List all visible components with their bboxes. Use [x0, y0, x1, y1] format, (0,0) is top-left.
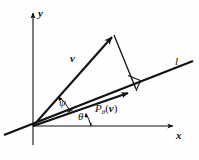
- angle-psi-label: ψ: [59, 97, 66, 108]
- figure-canvas: [0, 0, 199, 160]
- vector-v-label: v: [70, 53, 75, 64]
- y-axis-label: y: [38, 8, 43, 19]
- projection-label-close-paren: ): [114, 102, 118, 114]
- angle-theta-label: θ: [78, 111, 83, 122]
- projection-label-P: P: [95, 102, 102, 114]
- line-l-label: l: [175, 56, 178, 67]
- projection-label: Pθ(v): [95, 103, 117, 116]
- x-axis-label: x: [176, 130, 182, 141]
- angle-arc-theta: [85, 113, 91, 126]
- perpendicular-segment: [114, 35, 136, 89]
- geometry-figure: y x l v ψ θ Pθ(v): [0, 0, 199, 160]
- line-l: [4, 61, 193, 135]
